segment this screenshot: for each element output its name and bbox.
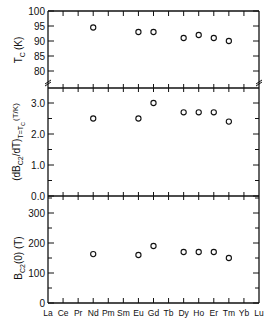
y-tick-label: 95 bbox=[34, 21, 46, 32]
data-point-nd bbox=[91, 252, 96, 257]
data-point-ho bbox=[196, 110, 201, 115]
data-point-gd bbox=[151, 29, 156, 34]
data-point-er bbox=[211, 35, 216, 40]
y-tick-label: 0 bbox=[39, 298, 45, 309]
data-point-tm bbox=[226, 38, 231, 43]
x-tick-label-yb: Yb bbox=[239, 308, 250, 318]
figure: 808590951000.01.02.03.00100200300 LaCePr… bbox=[0, 0, 270, 325]
x-tick-label-la: La bbox=[43, 308, 53, 318]
data-point-er bbox=[211, 110, 216, 115]
y-tick-label: 200 bbox=[28, 238, 45, 249]
panel-bottom: 0100200300 bbox=[28, 198, 259, 309]
data-point-dy bbox=[181, 35, 186, 40]
panel-middle: 0.01.02.03.0 bbox=[31, 98, 259, 202]
data-point-gd bbox=[151, 100, 156, 105]
x-axis-labels: LaCePrNdPmSmEuGdTbDyHoErTmYbLu bbox=[43, 308, 264, 318]
data-point-eu bbox=[136, 29, 141, 34]
y-tick-label: 100 bbox=[28, 268, 45, 279]
data-point-nd bbox=[91, 25, 96, 30]
x-tick-label-gd: Gd bbox=[148, 308, 160, 318]
x-tick-label-lu: Lu bbox=[254, 308, 264, 318]
data-point-dy bbox=[181, 249, 186, 254]
top-y-axis-title: TC(K) bbox=[13, 37, 26, 64]
x-tick-label-nd: Nd bbox=[88, 308, 99, 318]
x-tick-label-eu: Eu bbox=[133, 308, 144, 318]
x-tick-label-ce: Ce bbox=[58, 308, 69, 318]
data-point-ho bbox=[196, 32, 201, 37]
x-tick-label-pr: Pr bbox=[74, 308, 83, 318]
x-tick-label-sm: Sm bbox=[117, 308, 130, 318]
data-point-tm bbox=[226, 255, 231, 260]
x-tick-label-er: Er bbox=[210, 308, 219, 318]
y-tick-label: 90 bbox=[34, 36, 46, 47]
y-tick-label: 1.0 bbox=[31, 160, 45, 171]
panel-top: 80859095100 bbox=[28, 6, 259, 77]
data-point-dy bbox=[181, 110, 186, 115]
y-tick-label: 3.0 bbox=[31, 98, 45, 109]
x-tick-label-tm: Tm bbox=[223, 308, 235, 318]
data-point-nd bbox=[91, 116, 96, 121]
middle-y-axis-title: (dBC2/dT)T=TC(T/K) bbox=[11, 103, 26, 181]
y-tick-label: 300 bbox=[28, 208, 45, 219]
data-point-tm bbox=[226, 119, 231, 124]
panels: 808590951000.01.02.03.00100200300 bbox=[28, 6, 259, 309]
x-tick-label-dy: Dy bbox=[178, 308, 189, 318]
y-tick-label: 100 bbox=[28, 6, 45, 17]
data-point-ho bbox=[196, 249, 201, 254]
data-point-eu bbox=[136, 116, 141, 121]
data-point-er bbox=[211, 249, 216, 254]
x-tick-label-pm: Pm bbox=[102, 308, 115, 318]
y-tick-label: 85 bbox=[34, 51, 46, 62]
data-point-gd bbox=[151, 243, 156, 248]
x-tick-label-ho: Ho bbox=[193, 308, 204, 318]
y-tick-label: 2.0 bbox=[31, 129, 45, 140]
x-tick-label-tb: Tb bbox=[164, 308, 174, 318]
data-point-eu bbox=[136, 252, 141, 257]
y-tick-label: 0.0 bbox=[31, 191, 45, 202]
bottom-y-axis-title: BC2(0) (T) bbox=[13, 236, 26, 279]
y-tick-label: 80 bbox=[34, 66, 46, 77]
